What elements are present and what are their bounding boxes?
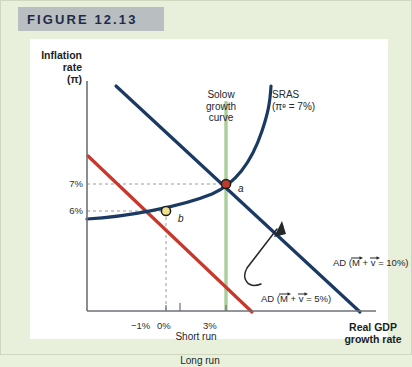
ad5-prefix: AD ( [261,293,280,304]
x-tick-label-minus1: −1% [131,320,150,331]
ad10-m-symbol: M [352,257,360,268]
ad10-m-vector: M [352,258,360,269]
ad5-m-vector: M [280,294,288,305]
chart-panel: Inflation rate (π) Solow growth curve SR… [30,39,388,339]
sras-curve-label: SRAS (πᵉ = 7%) [272,89,315,112]
y-axis-title: Inflation rate (π) [4,49,82,85]
ad10-suffix: = 10%) [376,257,409,268]
ad10-plus: + [360,257,371,268]
figure-number-banner: FIGURE 12.13 [18,7,164,31]
figure-number-label: FIGURE 12.13 [27,12,137,27]
y-axis-title-line1: Inflation [4,49,82,61]
x-axis-title: Real GDP growth rate [327,321,412,345]
sras-label-line2: (πᵉ = 7%) [272,101,315,113]
ad-shift-arrow [245,221,286,285]
long-run-label: Long run [154,355,246,367]
guide-lines [87,184,226,311]
equilibrium-point-b-label: b [178,213,184,225]
short-run-label: Short run [150,331,242,343]
ad-10-percent-label: AD (M + v = 10%) [333,258,409,269]
ad5-v-symbol: v [299,293,304,304]
ad5-v-vector: v [299,294,304,305]
y-axis-title-line2: rate [4,61,82,73]
ad10-v-symbol: v [371,257,376,268]
ad5-suffix: = 5%) [304,293,332,304]
equilibrium-point-a-label: a [238,183,244,195]
ad-5-percent-label: AD (M + v = 5%) [261,294,331,305]
y-axis-title-line3: (π) [4,73,82,85]
solow-label-line3: curve [190,112,252,124]
ad5-plus: + [288,293,299,304]
equilibrium-point-a-marker [221,179,230,188]
equilibrium-point-b-marker [161,206,170,215]
x-axis-title-line1: Real GDP [327,321,412,333]
ad10-prefix: AD ( [333,257,352,268]
x-axis-title-line2: growth rate [327,333,412,345]
solow-label-line2: growth [190,101,252,113]
y-tick-label-7: 7% [61,178,83,189]
x-tick-label-0: 0% [157,320,171,331]
x-tick-label-3: 3% [203,320,217,331]
solow-growth-curve-label: Solow growth curve [190,89,252,124]
solow-label-line1: Solow [190,89,252,101]
chart-svg [30,39,388,339]
sras-label-line1: SRAS [272,89,315,101]
y-tick-label-6: 6% [61,205,83,216]
ad5-m-symbol: M [280,293,288,304]
ad10-v-vector: v [371,258,376,269]
x-axis-tick-marks [166,303,226,311]
